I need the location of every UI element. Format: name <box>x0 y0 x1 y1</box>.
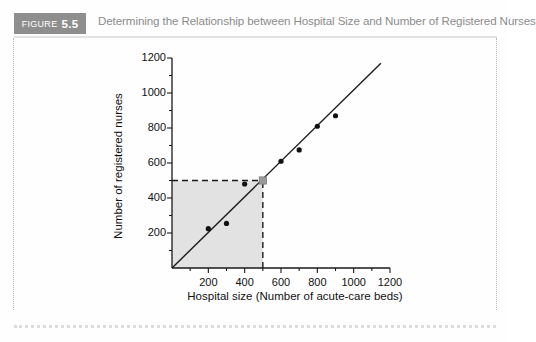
y-tick-label-1200: 1200 <box>128 51 166 63</box>
highlight-point <box>259 177 266 184</box>
highlight-point-layer <box>259 177 266 184</box>
x-tick-label-1200: 1200 <box>370 276 410 288</box>
data-point-5 <box>315 124 320 129</box>
x-tick-label-800: 800 <box>297 276 337 288</box>
regression-line <box>172 63 381 268</box>
y-tick-label-400: 400 <box>128 191 166 203</box>
y-tick-label-200: 200 <box>128 226 166 238</box>
y-tick-label-800: 800 <box>128 121 166 133</box>
x-axis-title: Hospital size (Number of acute-care beds… <box>0 290 510 302</box>
data-point-1 <box>224 221 229 226</box>
y-axis-title: Number of registered nurses <box>112 46 124 286</box>
data-point-4 <box>297 147 302 152</box>
x-tick-label-1000: 1000 <box>334 276 374 288</box>
x-tick-label-200: 200 <box>188 276 228 288</box>
data-point-0 <box>206 226 211 231</box>
y-tick-label-600: 600 <box>128 156 166 168</box>
data-point-2 <box>242 181 247 186</box>
data-point-3 <box>278 159 283 164</box>
x-tick-label-600: 600 <box>261 276 301 288</box>
y-tick-label-1000: 1000 <box>128 86 166 98</box>
x-axis-title-text: Hospital size (Number of acute-care beds… <box>187 290 402 302</box>
x-tick-label-400: 400 <box>225 276 265 288</box>
data-point-6 <box>333 113 338 118</box>
regression-line-layer <box>172 63 381 268</box>
